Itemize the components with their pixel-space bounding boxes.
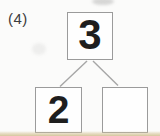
left-number-box: 2 (35, 87, 82, 133)
top-number-value: 3 (78, 14, 101, 56)
left-connector-line (60, 61, 87, 87)
problem-number-label: (4) (8, 10, 28, 27)
scan-smudge-mid (32, 43, 46, 55)
scan-smudge-top (92, 0, 114, 5)
top-number-box: 3 (67, 12, 113, 60)
answer-box[interactable] (102, 87, 148, 133)
scanned-paper-edge (0, 131, 160, 136)
left-number-value: 2 (48, 90, 70, 129)
worksheet-fragment: (4) 3 2 (0, 0, 160, 136)
right-connector-line (93, 61, 118, 86)
